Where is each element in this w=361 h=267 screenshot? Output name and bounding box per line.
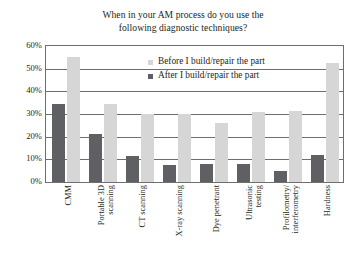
legend-label-before: Before I build/repair the part [158, 57, 265, 66]
bar-after-x-ray-scanning [163, 165, 176, 182]
bar-after-hardness [311, 155, 324, 182]
legend-swatch-before-icon [148, 60, 153, 65]
bar-after-cmm [52, 104, 65, 182]
bar-before-dye-penetrant [215, 123, 228, 182]
bar-before-x-ray-scanning [178, 114, 191, 182]
bar-before-ct-scanning [141, 114, 154, 182]
legend-entry-before: Before I build/repair the part [148, 55, 328, 69]
bar-group-portable-3d-scanning [87, 46, 124, 182]
x-axis-labels: CMM Portable 3D scanning CT scanning X-r… [46, 185, 343, 267]
x-label-cmm: CMM [50, 185, 87, 265]
legend-label-after: After I build/repair the part [158, 71, 259, 80]
y-tick-label-40: 40% [8, 86, 42, 95]
bar-after-profilometry-interferometry [274, 171, 287, 182]
legend-swatch-after-icon [148, 74, 153, 79]
x-label-profilometry-interferometry-text: Profilometry/ interferometry [281, 185, 300, 233]
bar-after-dye-penetrant [200, 164, 213, 182]
x-label-ct-scanning: CT scanning [124, 185, 161, 265]
x-label-portable-3d-scanning-text: Portable 3D scanning [96, 185, 115, 225]
x-label-cmm-text: CMM [64, 185, 73, 205]
x-label-x-ray-scanning: X-ray scanning [161, 185, 198, 265]
y-tick-label-10: 10% [8, 154, 42, 163]
x-label-hardness-text: Hardness [323, 185, 332, 216]
chart-title-line-2: following diagnostic techniques? [48, 22, 318, 35]
bar-after-portable-3d-scanning [89, 134, 102, 182]
chart-title: When in your AM process do you use the f… [48, 9, 318, 34]
x-label-ultrasonic-testing: Ultrasonic testing [235, 185, 272, 265]
y-tick-label-0: 0% [8, 177, 42, 186]
y-tick-label-20: 20% [8, 132, 42, 141]
bar-after-ct-scanning [126, 156, 139, 182]
x-label-portable-3d-scanning: Portable 3D scanning [87, 185, 124, 265]
x-label-profilometry-interferometry: Profilometry/ interferometry [272, 185, 309, 265]
bar-before-ultrasonic-testing [252, 112, 265, 182]
bar-chart-figure: When in your AM process do you use the f… [0, 0, 361, 267]
bar-group-cmm [50, 46, 87, 182]
y-tick-label-60: 60% [8, 41, 42, 50]
x-label-ct-scanning-text: CT scanning [138, 185, 147, 227]
bar-after-ultrasonic-testing [237, 164, 250, 182]
y-tick-label-50: 50% [8, 64, 42, 73]
x-label-dye-penetrant-text: Dye penetrant [212, 185, 221, 232]
bar-before-cmm [67, 57, 80, 182]
x-label-ultrasonic-testing-text: Ultrasonic testing [244, 185, 263, 220]
x-label-dye-penetrant: Dye penetrant [198, 185, 235, 265]
chart-title-line-1: When in your AM process do you use the [48, 9, 318, 22]
x-label-hardness: Hardness [309, 185, 346, 265]
x-label-x-ray-scanning-text: X-ray scanning [175, 185, 184, 236]
chart-legend: Before I build/repair the part After I b… [148, 55, 328, 83]
y-tick-label-30: 30% [8, 109, 42, 118]
bar-before-portable-3d-scanning [104, 104, 117, 182]
bar-before-profilometry-interferometry [289, 111, 302, 182]
legend-entry-after: After I build/repair the part [148, 69, 328, 83]
